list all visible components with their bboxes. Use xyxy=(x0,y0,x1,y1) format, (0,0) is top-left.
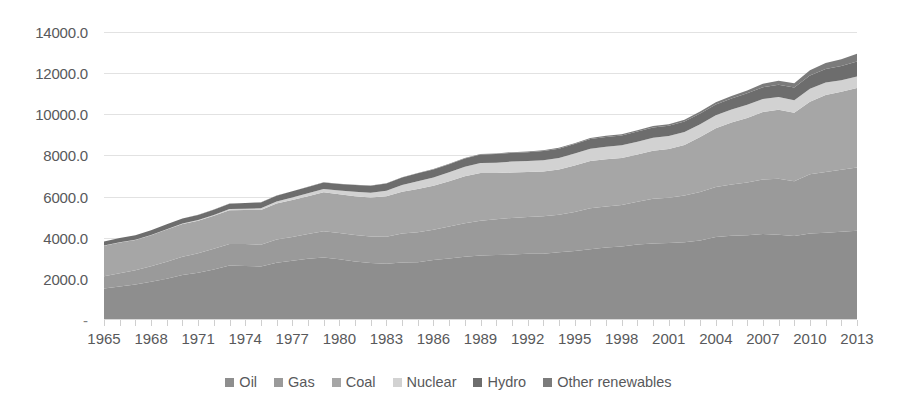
x-tick-2008 xyxy=(779,320,780,326)
legend-label: Hydro xyxy=(487,374,526,390)
x-tick-label-2013: 2013 xyxy=(840,330,873,347)
x-tick-1979 xyxy=(324,320,325,326)
x-tick-label-1998: 1998 xyxy=(605,330,638,347)
x-tick-label-1995: 1995 xyxy=(558,330,591,347)
legend-item-nuclear[interactable]: Nuclear xyxy=(393,374,457,390)
x-tick-label-1968: 1968 xyxy=(134,330,167,347)
legend-swatch-icon xyxy=(332,378,341,387)
x-tick-label-1992: 1992 xyxy=(511,330,544,347)
x-tick-1982 xyxy=(371,320,372,326)
x-tick-1990 xyxy=(496,320,497,326)
x-tick-1969 xyxy=(167,320,168,326)
x-tick-2003 xyxy=(700,320,701,326)
y-tick-label-14000: 14000.0 xyxy=(35,24,88,41)
x-tick-label-1986: 1986 xyxy=(417,330,450,347)
x-tick-label-2001: 2001 xyxy=(652,330,685,347)
plot-area xyxy=(104,32,857,320)
x-tick-label-1965: 1965 xyxy=(87,330,120,347)
area-series-group xyxy=(104,32,857,320)
x-tick-label-2010: 2010 xyxy=(793,330,826,347)
legend-item-coal[interactable]: Coal xyxy=(332,374,376,390)
y-tick-label-2000: 2000.0 xyxy=(43,270,88,287)
x-tick-1981 xyxy=(355,320,356,326)
x-tick-1972 xyxy=(214,320,215,326)
x-tick-1978 xyxy=(308,320,309,326)
x-tick-1999 xyxy=(637,320,638,326)
x-tick-2002 xyxy=(684,320,685,326)
legend-label: Oil xyxy=(239,374,257,390)
x-tick-2012 xyxy=(841,320,842,326)
x-axis-labels: 1965196819711974197719801983198619891992… xyxy=(0,330,897,356)
x-tick-1983 xyxy=(386,320,387,326)
x-tick-2000 xyxy=(653,320,654,326)
x-tick-1971 xyxy=(198,320,199,326)
x-tick-label-2007: 2007 xyxy=(746,330,779,347)
x-tick-1965 xyxy=(104,320,105,326)
legend-label: Other renewables xyxy=(557,374,671,390)
y-tick-label-4000: 4000.0 xyxy=(43,229,88,246)
x-tick-1988 xyxy=(465,320,466,326)
y-tick-label-0: - xyxy=(83,312,88,329)
x-tick-1973 xyxy=(230,320,231,326)
x-tick-1970 xyxy=(182,320,183,326)
x-axis-ticks xyxy=(104,320,857,327)
x-tick-1985 xyxy=(418,320,419,326)
x-tick-1995 xyxy=(575,320,576,326)
x-tick-label-1989: 1989 xyxy=(464,330,497,347)
x-tick-1996 xyxy=(590,320,591,326)
x-tick-1967 xyxy=(135,320,136,326)
x-tick-1980 xyxy=(339,320,340,326)
legend-label: Nuclear xyxy=(407,374,457,390)
x-tick-label-1974: 1974 xyxy=(229,330,262,347)
y-tick-label-6000: 6000.0 xyxy=(43,188,88,205)
y-tick-label-12000: 12000.0 xyxy=(35,65,88,82)
x-tick-1989 xyxy=(481,320,482,326)
y-tick-label-8000: 8000.0 xyxy=(43,147,88,164)
legend-item-hydro[interactable]: Hydro xyxy=(473,374,526,390)
legend-label: Coal xyxy=(346,374,376,390)
x-tick-1975 xyxy=(261,320,262,326)
x-tick-label-2004: 2004 xyxy=(699,330,732,347)
x-tick-1976 xyxy=(277,320,278,326)
x-tick-1992 xyxy=(528,320,529,326)
x-tick-2004 xyxy=(716,320,717,326)
x-tick-2009 xyxy=(794,320,795,326)
x-tick-1968 xyxy=(151,320,152,326)
legend-swatch-icon xyxy=(393,378,402,387)
legend-swatch-icon xyxy=(543,378,552,387)
x-tick-1987 xyxy=(449,320,450,326)
legend-swatch-icon xyxy=(274,378,283,387)
x-tick-2001 xyxy=(669,320,670,326)
legend-item-oil[interactable]: Oil xyxy=(225,374,257,390)
x-tick-1977 xyxy=(292,320,293,326)
x-tick-label-1971: 1971 xyxy=(181,330,214,347)
legend-item-other-renewables[interactable]: Other renewables xyxy=(543,374,671,390)
legend-swatch-icon xyxy=(225,378,234,387)
x-tick-2013 xyxy=(857,320,858,326)
x-tick-label-1980: 1980 xyxy=(323,330,356,347)
x-tick-1984 xyxy=(402,320,403,326)
x-tick-2010 xyxy=(810,320,811,326)
x-tick-2006 xyxy=(747,320,748,326)
x-tick-1966 xyxy=(120,320,121,326)
chart-legend: OilGasCoalNuclearHydroOther renewables xyxy=(0,374,897,390)
x-tick-1998 xyxy=(622,320,623,326)
stacked-area-chart: 14000.012000.010000.08000.06000.04000.02… xyxy=(0,0,897,415)
x-tick-1994 xyxy=(559,320,560,326)
x-tick-2005 xyxy=(732,320,733,326)
legend-label: Gas xyxy=(288,374,315,390)
x-tick-1993 xyxy=(543,320,544,326)
x-tick-label-1977: 1977 xyxy=(276,330,309,347)
legend-swatch-icon xyxy=(473,378,482,387)
x-tick-1991 xyxy=(512,320,513,326)
x-tick-1986 xyxy=(433,320,434,326)
x-tick-1974 xyxy=(245,320,246,326)
x-tick-1997 xyxy=(606,320,607,326)
x-tick-label-1983: 1983 xyxy=(370,330,403,347)
legend-item-gas[interactable]: Gas xyxy=(274,374,315,390)
y-tick-label-10000: 10000.0 xyxy=(35,106,88,123)
x-tick-2011 xyxy=(826,320,827,326)
x-tick-2007 xyxy=(763,320,764,326)
